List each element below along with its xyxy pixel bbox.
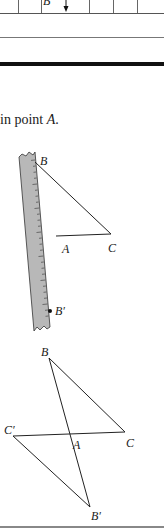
- label-A: A: [72, 438, 81, 452]
- label-B-prime: B′: [91, 509, 101, 523]
- segment-BC: [49, 358, 125, 432]
- divider-bottom: [0, 526, 164, 528]
- reflection-figure: B C C′ A B′: [0, 0, 164, 530]
- label-B: B: [41, 345, 49, 359]
- label-C: C: [126, 436, 135, 450]
- segment-C-prime-C: [13, 432, 125, 436]
- label-C-prime: C′: [4, 423, 15, 437]
- segment-BB-prime: [49, 358, 90, 507]
